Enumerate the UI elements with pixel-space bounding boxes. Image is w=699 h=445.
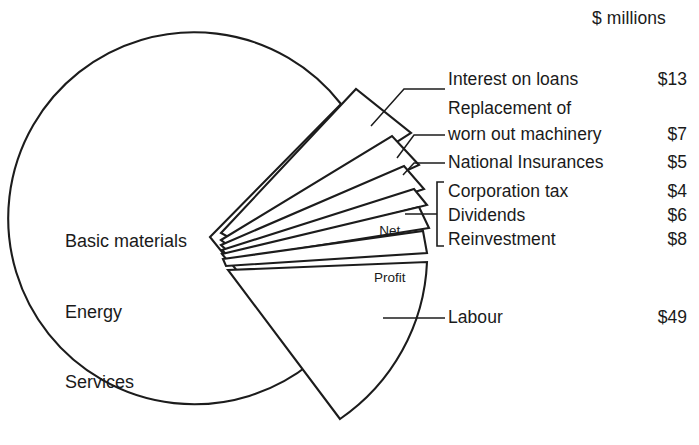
legend-amount-national-insurances: $5 (633, 154, 687, 172)
chart-canvas: $ millions Basic materials Energy Servic… (0, 0, 699, 445)
net-profit-line-1: Net (374, 223, 406, 239)
legend-amount-reinvestment: $8 (633, 231, 687, 249)
legend-amount-labour: $49 (633, 309, 687, 327)
legend-amount-interest-on-loans: $13 (633, 71, 687, 89)
legend-label-national-insurances: National Insurances (448, 154, 604, 172)
center-slice-line-3: Services (65, 371, 187, 395)
legend-amount-dividends: $6 (633, 207, 687, 225)
legend-label-corporation-tax: Corporation tax (448, 183, 568, 201)
legend-label-reinvestment: Reinvestment (448, 231, 556, 249)
legend-amount-replacement-machinery: $7 (633, 126, 687, 144)
net-profit-line-2: Profit (374, 270, 406, 286)
legend-label-replacement-machinery-line2: worn out machinery (448, 126, 602, 144)
center-slice-line-1: Basic materials (65, 230, 187, 254)
legend-label-replacement-machinery-line1: Replacement of (448, 100, 571, 118)
legend-label-interest-on-loans: Interest on loans (448, 71, 578, 89)
units-header: $ millions (592, 10, 666, 28)
legend-label-dividends: Dividends (448, 207, 525, 225)
net-profit-bracket (437, 182, 444, 246)
center-slice-label: Basic materials Energy Services Taxes $3… (65, 183, 187, 445)
net-profit-label: Net Profit (374, 192, 406, 316)
center-slice-line-4: Taxes (65, 442, 187, 445)
legend-label-labour: Labour (448, 309, 503, 327)
center-slice-line-2: Energy (65, 301, 187, 325)
legend-amount-corporation-tax: $4 (633, 183, 687, 201)
